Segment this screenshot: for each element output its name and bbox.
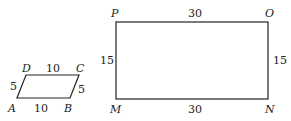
- side-label-ab: 10: [34, 102, 48, 115]
- vertex-label-p: P: [110, 7, 119, 20]
- vertex-label-n: N: [264, 103, 275, 116]
- rectangle-mnop: [116, 22, 268, 99]
- vertex-label-c: C: [76, 62, 85, 75]
- side-label-mn: 30: [188, 103, 202, 116]
- vertex-label-d: D: [21, 62, 31, 75]
- geometry-diagram: D C A B 10 10 5 5 P O M N 30 30 15 15: [0, 0, 291, 121]
- parallelogram-abcd: [17, 75, 79, 98]
- side-label-on: 15: [273, 54, 287, 67]
- side-label-ad: 5: [10, 80, 17, 93]
- side-label-pm: 15: [100, 54, 114, 67]
- side-label-po: 30: [188, 7, 202, 20]
- side-label-dc: 10: [46, 62, 60, 75]
- side-label-bc: 5: [78, 83, 85, 96]
- vertex-label-b: B: [63, 102, 72, 115]
- vertex-label-m: M: [109, 103, 122, 116]
- vertex-label-a: A: [7, 102, 16, 115]
- vertex-label-o: O: [265, 7, 274, 20]
